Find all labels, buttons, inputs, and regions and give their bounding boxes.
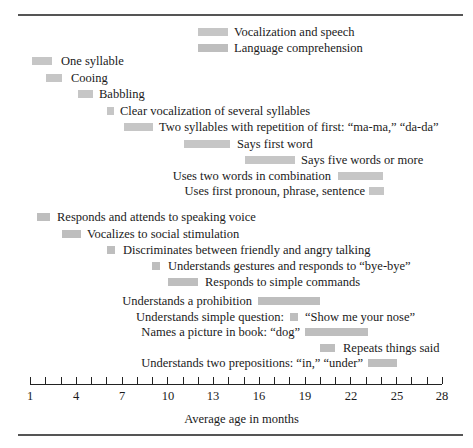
tick-label: 22 xyxy=(345,389,358,404)
tick-label: 10 xyxy=(162,389,175,404)
x-axis-tick xyxy=(61,377,62,384)
tick-label: 25 xyxy=(391,389,404,404)
x-axis-tick xyxy=(442,377,443,384)
row-label: Responds and attends to speaking voice xyxy=(57,210,256,224)
x-axis-tick xyxy=(411,377,412,384)
x-axis-tick xyxy=(335,377,336,384)
bottom-rule xyxy=(18,434,463,436)
tick-label: 1 xyxy=(27,389,33,404)
x-axis-tick xyxy=(396,377,397,384)
bar-five-words xyxy=(245,156,295,164)
bar-clear-vocalization xyxy=(107,107,114,115)
row-label: Babbling xyxy=(99,87,145,101)
row-label: Understands a prohibition xyxy=(122,294,252,308)
row-label: Says first word xyxy=(237,137,313,151)
legend-swatch-speech xyxy=(198,28,228,36)
legend-swatch-comprehension xyxy=(198,44,228,52)
row-label: Uses first pronoun, phrase, sentence xyxy=(184,184,365,198)
x-axis xyxy=(30,384,442,385)
tick-label: 4 xyxy=(73,389,79,404)
row-label: Understands two prepositions: “in,” “und… xyxy=(141,356,363,370)
bar-vocalizes-social xyxy=(62,230,81,238)
bar-two-words xyxy=(338,172,383,180)
x-axis-tick xyxy=(289,377,290,384)
x-axis-tick xyxy=(198,377,199,384)
bar-repeats xyxy=(320,344,335,352)
legend-label-comprehension: Language comprehension xyxy=(234,41,363,55)
tick-label: 19 xyxy=(299,389,312,404)
row-label: Names a picture in book: “dog” xyxy=(141,325,300,339)
x-axis-tick xyxy=(427,377,428,384)
row-label: “Show me your nose” xyxy=(305,310,415,324)
bar-prohibition xyxy=(258,297,320,305)
row-label: One syllable xyxy=(61,54,124,68)
tick-label: 28 xyxy=(436,389,449,404)
x-axis-tick xyxy=(137,377,138,384)
bar-gestures xyxy=(152,262,160,270)
x-axis-tick xyxy=(366,377,367,384)
bar-simple-question xyxy=(290,313,298,321)
x-axis-tick xyxy=(259,377,260,384)
bar-one-syllable xyxy=(32,57,52,65)
bar-first-word xyxy=(184,140,230,148)
row-label: Discriminates between friendly and angry… xyxy=(123,243,371,257)
tick-label: 16 xyxy=(253,389,266,404)
bar-two-syllables xyxy=(124,123,153,131)
x-axis-tick xyxy=(76,377,77,384)
legend-label-speech: Vocalization and speech xyxy=(234,25,355,39)
bar-two-prepositions xyxy=(368,359,397,367)
x-axis-tick xyxy=(152,377,153,384)
bar-responds-voice xyxy=(37,213,50,221)
bar-discriminates xyxy=(107,246,115,254)
bar-simple-commands xyxy=(168,278,198,286)
x-axis-tick xyxy=(381,377,382,384)
x-axis-tick xyxy=(30,377,31,384)
x-axis-tick xyxy=(228,377,229,384)
x-axis-tick xyxy=(213,377,214,384)
tick-label: 7 xyxy=(119,389,125,404)
x-axis-label: Average age in months xyxy=(0,412,473,427)
x-axis-tick xyxy=(350,377,351,384)
row-label: Says five words or more xyxy=(301,153,423,167)
x-axis-tick xyxy=(274,377,275,384)
bar-cooing xyxy=(46,74,62,82)
x-axis-tick xyxy=(305,377,306,384)
x-axis-tick xyxy=(106,377,107,384)
row-label: Repeats things said xyxy=(343,341,440,355)
row-label: Understands simple question: xyxy=(136,310,284,324)
bar-names-picture xyxy=(305,328,368,336)
x-axis-tick xyxy=(167,377,168,384)
row-label: Cooing xyxy=(71,71,108,85)
x-axis-tick xyxy=(45,377,46,384)
row-label: Understands gestures and responds to “by… xyxy=(168,259,411,273)
x-axis-tick xyxy=(122,377,123,384)
row-label: Responds to simple commands xyxy=(205,275,360,289)
row-label: Two syllables with repetition of first: … xyxy=(159,120,439,134)
bar-first-pronoun xyxy=(369,187,384,195)
x-axis-tick xyxy=(320,377,321,384)
row-label: Clear vocalization of several syllables xyxy=(120,104,310,118)
row-label: Uses two words in combination xyxy=(173,169,331,183)
bar-babbling xyxy=(78,90,93,98)
x-axis-tick xyxy=(183,377,184,384)
tick-label: 13 xyxy=(207,389,220,404)
top-rule xyxy=(18,14,463,16)
row-label: Vocalizes to social stimulation xyxy=(87,227,239,241)
x-axis-tick xyxy=(244,377,245,384)
x-axis-tick xyxy=(91,377,92,384)
